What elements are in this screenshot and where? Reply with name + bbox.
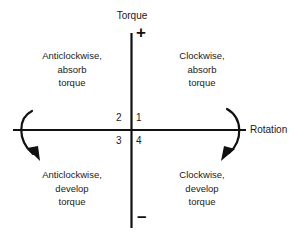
quadrant-4-line-2: develop xyxy=(150,182,254,196)
clockwise-rotation-arrow xyxy=(221,109,239,161)
quadrant-2-line-2: absorb xyxy=(20,63,124,77)
quadrant-2-caption: Anticlockwise, absorb torque xyxy=(20,49,124,90)
quadrant-1-line-2: absorb xyxy=(150,63,254,77)
quadrant-4-line-1: Clockwise, xyxy=(150,168,254,182)
quadrant-number-2: 2 xyxy=(116,113,122,123)
quadrant-1-line-3: torque xyxy=(150,76,254,90)
quadrant-3-line-1: Anticlockwise, xyxy=(20,168,124,182)
quadrant-number-3: 3 xyxy=(116,136,122,146)
quadrant-4-caption: Clockwise, develop torque xyxy=(150,168,254,209)
anticlockwise-rotation-arrow xyxy=(21,111,40,161)
quadrant-1-line-1: Clockwise, xyxy=(150,49,254,63)
quadrant-3-line-2: develop xyxy=(20,182,124,196)
axis-label-torque: Torque xyxy=(106,9,158,22)
quadrant-3-caption: Anticlockwise, develop torque xyxy=(20,168,124,209)
quadrant-2-line-1: Anticlockwise, xyxy=(20,49,124,63)
quadrant-1-caption: Clockwise, absorb torque xyxy=(150,49,254,90)
axis-label-rotation: Rotation xyxy=(250,123,287,136)
negative-sign: – xyxy=(137,208,146,225)
quadrant-3-line-3: torque xyxy=(20,195,124,209)
quadrant-number-4: 4 xyxy=(136,136,142,146)
quadrant-number-1: 1 xyxy=(136,113,142,123)
quadrant-2-line-3: torque xyxy=(20,76,124,90)
quadrant-4-line-3: torque xyxy=(150,195,254,209)
torque-rotation-diagram: Torque Rotation + – Anticlockwise, absor… xyxy=(0,0,306,238)
positive-sign: + xyxy=(136,24,146,41)
